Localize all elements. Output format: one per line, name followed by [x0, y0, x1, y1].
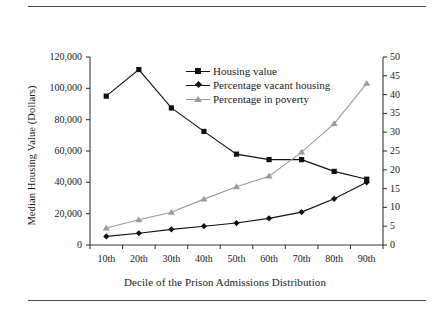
data-point [168, 226, 174, 232]
y-axis-left-tick-label: 40,000 [26, 176, 82, 187]
data-point [299, 209, 305, 215]
y-axis-right-tick-label: 25 [390, 145, 420, 156]
x-axis-tick-label: 90th [347, 253, 387, 264]
y-axis-left-tick-label: 80,000 [26, 114, 82, 125]
y-axis-right-tick-label: 5 [390, 220, 420, 231]
data-point [299, 157, 304, 162]
data-point [266, 215, 272, 221]
y-axis-right-tick-label: 30 [390, 126, 420, 137]
data-point [331, 196, 337, 202]
legend-marker-square-icon [186, 64, 210, 78]
data-point [363, 80, 370, 86]
y-axis-left-tick-label: 120,000 [26, 51, 82, 62]
data-point [201, 223, 207, 229]
data-point [103, 233, 109, 239]
data-point [136, 230, 142, 236]
data-point [332, 169, 337, 174]
legend-item[interactable]: Percentage in poverty [186, 92, 330, 106]
y-axis-right-tick-label: 35 [390, 107, 420, 118]
y-axis-right-tick-label: 0 [390, 239, 420, 250]
y-axis-right-tick-label: 15 [390, 183, 420, 194]
data-point [201, 129, 206, 134]
y-axis-left-tick-label: 100,000 [26, 82, 82, 93]
y-axis-right-tick-label: 10 [390, 201, 420, 212]
chart-plot-area [0, 0, 447, 313]
y-axis-right-tick-label: 50 [390, 51, 420, 62]
legend-item-label: Housing value [210, 65, 277, 77]
legend-item-label: Percentage vacant housing [210, 79, 330, 91]
y-axis-left-tick-label: 0 [26, 239, 82, 250]
data-point [233, 220, 239, 226]
y-axis-left-tick-label: 60,000 [26, 145, 82, 156]
x-axis-title: Decile of the Prison Admissions Distribu… [60, 276, 390, 288]
y-axis-right-tick-label: 45 [390, 70, 420, 81]
legend-marker-diamond-icon [186, 78, 210, 92]
data-point [266, 157, 271, 162]
legend-marker-triangle-icon [186, 92, 210, 106]
legend-item-label: Percentage in poverty [210, 93, 309, 105]
y-axis-right-tick-label: 40 [390, 89, 420, 100]
y-axis-left-tick-label: 20,000 [26, 208, 82, 219]
data-point [136, 67, 141, 72]
legend-item[interactable]: Housing value [186, 64, 330, 78]
data-point [234, 152, 239, 157]
data-point [169, 105, 174, 110]
series-line [106, 182, 366, 236]
chart-legend: Housing valuePercentage vacant housingPe… [186, 64, 330, 106]
y-axis-right-tick-label: 20 [390, 164, 420, 175]
data-point [104, 94, 109, 99]
legend-item[interactable]: Percentage vacant housing [186, 78, 330, 92]
figure-container: Median Housing Value (Dollars) Housing U… [0, 0, 447, 313]
